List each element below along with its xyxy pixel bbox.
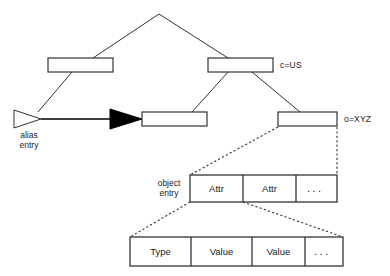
edge-root-to-left-middle [93, 14, 159, 58]
value-cell-value-2-label[interactable]: Value [252, 246, 305, 257]
expansion-lines-object-entry [190, 127, 337, 175]
attr-cell-ellipsis-label: ... [307, 182, 324, 194]
attr-cell-1-label[interactable]: Attr [190, 183, 243, 194]
expansion-line-left-object [190, 127, 278, 175]
alias-entry-label-line1: alias [12, 130, 46, 140]
object-entry-label: object entry [152, 178, 186, 198]
expansion-line-left-attribute [130, 202, 190, 237]
edge-left-middle-to-alias [38, 72, 72, 112]
alias-entry-label: alias entry [12, 130, 46, 150]
right-leaf-node-box[interactable] [278, 112, 337, 126]
edge-root-to-right-middle [159, 14, 228, 58]
center-leaf-node-box[interactable] [142, 112, 207, 126]
label-c-us: c=US [280, 60, 302, 70]
label-o-xyz: o=XYZ [344, 114, 371, 124]
attr-cell-2-label[interactable]: Attr [243, 183, 296, 194]
directory-tree-diagram [0, 0, 390, 276]
value-cell-type-label[interactable]: Type [130, 246, 191, 257]
left-middle-node-box[interactable] [48, 58, 113, 72]
alias-hollow-triangle-icon [14, 110, 41, 128]
alias-solid-arrowhead-icon [110, 109, 142, 129]
diagram-canvas: c=US o=XYZ alias entry object entry Attr… [0, 0, 390, 276]
value-cell-value-1-label[interactable]: Value [191, 246, 252, 257]
right-middle-node-box[interactable] [208, 58, 273, 72]
edge-right-middle-to-center-leaf [192, 72, 228, 112]
object-entry-label-line2: entry [152, 188, 186, 198]
expansion-lines-attribute [130, 202, 343, 237]
alias-entry-label-line2: entry [12, 140, 46, 150]
expansion-line-right-attribute [243, 202, 343, 237]
object-entry-label-line1: object [152, 178, 186, 188]
value-cell-ellipsis-label: ... [314, 245, 331, 257]
edge-right-middle-to-right-leaf [252, 72, 300, 112]
